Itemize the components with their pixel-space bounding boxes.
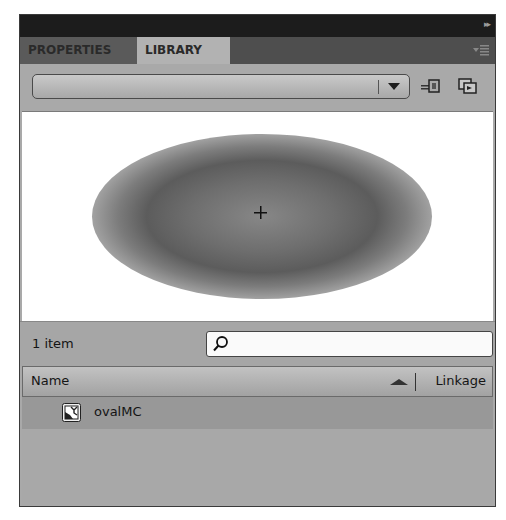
panel-title-bar[interactable]: ▸▸ bbox=[20, 15, 495, 37]
panel-tab-strip: PROPERTIES LIBRARY bbox=[20, 37, 495, 64]
panel-menu-icon[interactable] bbox=[473, 45, 489, 56]
sort-ascending-icon[interactable] bbox=[390, 379, 408, 385]
item-count: 1 item bbox=[32, 336, 74, 351]
document-dropdown[interactable] bbox=[32, 74, 410, 99]
tab-library[interactable]: LIBRARY bbox=[137, 37, 230, 64]
registration-point-icon bbox=[254, 206, 267, 219]
search-icon bbox=[212, 335, 230, 353]
symbol-preview bbox=[22, 111, 493, 322]
library-column-header: Name Linkage bbox=[22, 366, 493, 397]
library-toolbar bbox=[20, 64, 495, 112]
library-item-row[interactable]: ovalMC bbox=[22, 397, 493, 429]
chevron-down-icon[interactable] bbox=[388, 83, 400, 90]
column-header-name[interactable]: Name bbox=[31, 373, 69, 388]
library-count-bar: 1 item bbox=[20, 321, 495, 366]
library-search-input[interactable] bbox=[206, 331, 493, 357]
library-panel: ▸▸ PROPERTIES LIBRARY bbox=[19, 14, 496, 507]
column-separator[interactable] bbox=[415, 373, 416, 391]
collapse-panel-icon[interactable]: ▸▸ bbox=[484, 19, 489, 29]
dropdown-separator bbox=[378, 80, 379, 94]
pin-library-icon[interactable] bbox=[420, 76, 442, 96]
column-header-linkage[interactable]: Linkage bbox=[435, 373, 486, 388]
library-list-empty-area[interactable] bbox=[22, 429, 493, 505]
tab-properties[interactable]: PROPERTIES bbox=[20, 37, 137, 64]
new-library-panel-icon[interactable] bbox=[457, 76, 479, 96]
library-item-name: ovalMC bbox=[94, 404, 142, 419]
movie-clip-symbol-icon bbox=[62, 403, 81, 422]
